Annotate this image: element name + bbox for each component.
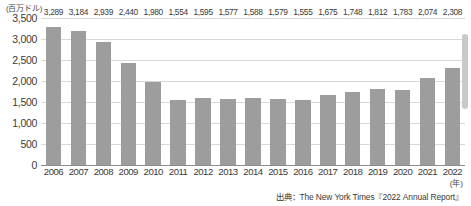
bar-value-label: 1,555 [293,7,312,17]
vertical-scrollbar[interactable] [462,34,468,109]
bar[interactable]: 1,980 [145,82,160,165]
bar-value-label: 2,440 [119,7,138,17]
x-axis-tick-label: 2012 [191,166,216,177]
bar[interactable]: 1,554 [170,100,185,165]
x-axis-tick-label: 2015 [265,166,290,177]
y-axis-tick-label: 500 [20,138,37,150]
bar-value-label: 1,812 [368,7,387,17]
bar[interactable]: 1,748 [345,92,360,165]
x-axis-tick-label: 2021 [415,166,440,177]
x-axis-tick-label: 2013 [216,166,241,177]
bar-slot: 1,980 [141,18,166,165]
bar-slot: 1,812 [365,18,390,165]
bar-value-label: 2,939 [94,7,113,17]
bar-value-label: 1,595 [193,7,212,17]
x-axis-tick-label: 2008 [91,166,116,177]
bar[interactable]: 2,074 [420,78,435,165]
bar-slot: 3,184 [66,18,91,165]
x-axis-tick-label: 2011 [166,166,191,177]
bar-value-label: 1,980 [144,7,163,17]
bar-slot: 1,579 [265,18,290,165]
bar[interactable]: 3,289 [46,27,61,165]
x-axis-tick-label: 2016 [290,166,315,177]
x-axis-tick-label: 2007 [66,166,91,177]
bar-value-label: 3,184 [69,7,88,17]
y-axis-tick-label: 2,000 [12,75,37,87]
y-axis-tick-label: 3,500 [12,12,37,24]
bar-value-label: 1,588 [243,7,262,17]
bar-value-label: 1,675 [318,7,337,17]
bar-slot: 2,939 [91,18,116,165]
bar[interactable]: 1,577 [220,99,235,165]
x-axis-tick-labels: 2006200720082009201020112012201320142015… [41,166,465,177]
y-axis-tick-label: 2,500 [12,54,37,66]
bar-value-label: 1,579 [268,7,287,17]
bar-value-label: 1,748 [343,7,362,17]
x-axis-tick-label: 2009 [116,166,141,177]
y-axis-tick-label: 1,500 [12,96,37,108]
bar[interactable]: 1,588 [245,98,260,165]
bar-slot: 2,074 [415,18,440,165]
bar-value-label: 3,289 [44,7,63,17]
bar-slot: 1,675 [315,18,340,165]
bar[interactable]: 1,555 [295,100,310,165]
bar-series: 3,2893,1842,9392,4401,9801,5541,5951,577… [41,18,465,165]
bar-value-label: 1,577 [218,7,237,17]
bar-slot: 1,748 [340,18,365,165]
bar[interactable]: 1,579 [270,99,285,165]
x-axis-tick-label: 2019 [365,166,390,177]
plot-area: 3,5003,0002,5002,0001,5001,0005000 3,289… [41,18,465,165]
bar-value-label: 2,308 [443,7,462,17]
bar[interactable]: 3,184 [71,31,86,165]
bar-slot: 1,577 [216,18,241,165]
bar[interactable]: 1,675 [320,95,335,165]
y-axis-tick-label: 3,000 [12,33,37,45]
bar-slot: 1,588 [241,18,266,165]
bar-slot: 2,440 [116,18,141,165]
bar-slot: 1,595 [191,18,216,165]
bar[interactable]: 1,783 [395,90,410,165]
chart-screenshot: (百万ドル) 3,5003,0002,5002,0001,5001,000500… [0,0,471,206]
bar[interactable]: 2,308 [445,68,460,165]
x-axis-tick-label: 2022 [440,166,465,177]
bar[interactable]: 2,440 [121,63,136,165]
x-axis-tick-label: 2018 [340,166,365,177]
y-axis-tick-label: 0 [31,159,37,171]
bar-value-label: 1,783 [393,7,412,17]
bar[interactable]: 1,595 [195,98,210,165]
bar[interactable]: 1,812 [370,89,385,165]
bar-slot: 3,289 [41,18,66,165]
x-axis-tick-label: 2020 [390,166,415,177]
x-axis-tick-label: 2017 [315,166,340,177]
source-note: 出典：The New York Times『2022 Annual Report… [276,190,463,202]
bar-value-label: 2,074 [418,7,437,17]
y-axis-tick-label: 1,000 [12,117,37,129]
x-axis-tick-label: 2010 [141,166,166,177]
x-axis-tick-label: 2006 [41,166,66,177]
x-axis-tick-label: 2014 [241,166,266,177]
bar-slot: 1,554 [166,18,191,165]
bar-slot: 1,555 [290,18,315,165]
bar-slot: 1,783 [390,18,415,165]
x-axis-unit-label: (年) [450,177,463,188]
bar[interactable]: 2,939 [96,42,111,165]
bar-value-label: 1,554 [169,7,188,17]
